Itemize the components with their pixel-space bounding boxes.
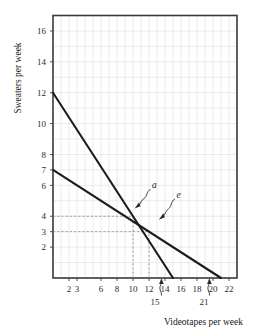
- x-axis-title: Videotapes per week: [164, 317, 243, 327]
- x-tick-label-16: 16: [177, 284, 187, 294]
- x-intercept-21-label: 21: [200, 297, 209, 307]
- x-tick-label-22: 22: [225, 284, 234, 294]
- line-e-label: e: [177, 190, 181, 200]
- pointer-to-line-a: [135, 190, 151, 209]
- x-tick-label-8: 8: [115, 284, 120, 294]
- x-tick-label-6: 6: [99, 284, 104, 294]
- y-tick-label-6: 6: [42, 181, 47, 191]
- y-tick-label-2: 2: [42, 242, 47, 252]
- y-tick-label-4: 4: [42, 211, 47, 221]
- x-intercept-15-label: 15: [151, 297, 161, 307]
- data-line-e: [53, 170, 221, 278]
- y-tick-labels: 23467810121416: [37, 26, 47, 252]
- y-axis-title: Sweaters per week: [13, 42, 23, 113]
- x-tick-label-2: 2: [67, 284, 72, 294]
- plot-frame: [53, 16, 237, 279]
- y-tick-label-7: 7: [42, 165, 47, 175]
- pointer-to-line-e: [159, 199, 175, 220]
- y-tick-label-10: 10: [37, 119, 47, 129]
- x-tick-label-14: 14: [161, 284, 171, 294]
- y-tick-label-16: 16: [37, 26, 47, 36]
- chart-svg: 236810121416182022 23467810121416 15 21 …: [0, 0, 257, 332]
- y-tick-label-8: 8: [42, 150, 47, 160]
- x-tick-label-18: 18: [193, 284, 203, 294]
- x-tick-label-3: 3: [75, 284, 80, 294]
- line-a-label: a: [152, 180, 157, 190]
- y-tick-label-14: 14: [37, 57, 47, 67]
- x-tick-label-20: 20: [209, 284, 219, 294]
- y-tick-label-12: 12: [37, 88, 46, 98]
- x-tick-label-12: 12: [145, 284, 154, 294]
- y-tick-label-3: 3: [42, 227, 47, 237]
- grid-layer: [53, 16, 237, 279]
- x-tick-label-10: 10: [129, 284, 139, 294]
- chart-figure: 236810121416182022 23467810121416 15 21 …: [0, 0, 257, 332]
